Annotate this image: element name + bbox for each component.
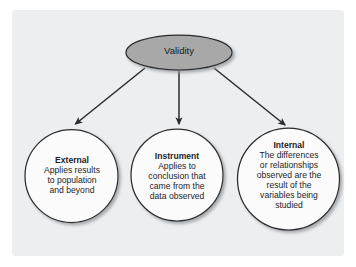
connectors xyxy=(76,68,286,125)
node-validity-shape[interactable] xyxy=(126,35,232,70)
node-instrument-shape[interactable] xyxy=(131,129,223,221)
arrow-to-internal xyxy=(214,68,285,125)
arrow-to-external xyxy=(76,68,146,124)
diagram-canvas xyxy=(0,0,356,267)
validity-diagram: Validity External Applies results to pop… xyxy=(0,0,356,267)
node-internal-shape[interactable] xyxy=(238,128,340,230)
node-external-shape[interactable] xyxy=(25,130,118,223)
